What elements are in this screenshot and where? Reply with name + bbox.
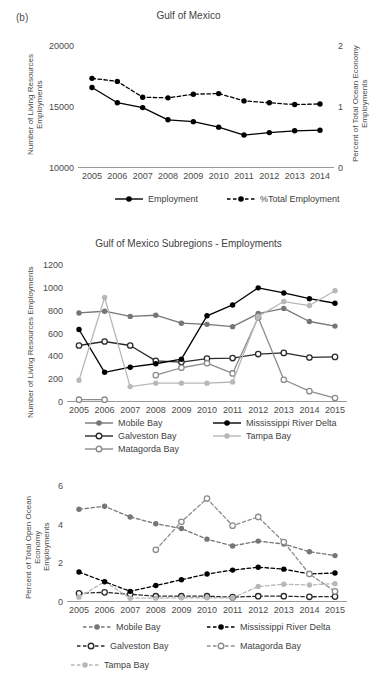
legend-symbol-icon — [82, 622, 112, 632]
legend-item-matagorda-bay[interactable]: Matagorda Bay — [206, 641, 301, 651]
y-axis-tick-label-right: 2 — [338, 41, 343, 51]
x-axis-tick-label: 2013 — [274, 605, 294, 615]
legend-marker — [88, 643, 94, 649]
x-axis-tick-label: 2009 — [171, 405, 191, 415]
x-axis-tick-label: 2006 — [95, 405, 115, 415]
legend-item-employment[interactable]: Employment — [114, 194, 198, 204]
legend-symbol-icon — [206, 641, 236, 651]
data-point-marker — [216, 124, 221, 129]
x-axis-tick-label: 2008 — [158, 171, 178, 181]
chart-legend: Employment%Total Employment — [78, 192, 334, 208]
data-point-marker — [128, 314, 133, 319]
legend-symbol-icon — [212, 431, 242, 441]
y-axis-tick-label: 600 — [48, 329, 63, 339]
data-point-marker — [179, 595, 184, 600]
data-point-marker — [281, 290, 286, 295]
legend-marker — [218, 643, 224, 649]
chart-panel-subregions-employments: Gulf of Mexico Subregions - Employments … — [0, 232, 377, 470]
data-point-marker — [332, 581, 337, 586]
legend-label: Matagorda Bay — [240, 641, 301, 651]
x-axis-tick-label: 2015 — [325, 405, 345, 415]
data-point-marker — [230, 543, 235, 548]
legend-item-tampa-bay[interactable]: Tampa Bay — [212, 431, 291, 441]
y-axis-tick-label: 0 — [58, 597, 63, 607]
data-point-marker — [230, 302, 235, 307]
data-point-marker — [230, 324, 235, 329]
x-axis-tick-label: 2010 — [209, 171, 229, 181]
data-point-marker — [128, 384, 133, 389]
data-point-marker — [140, 95, 145, 100]
data-point-marker — [191, 91, 196, 96]
data-point-marker — [102, 339, 107, 344]
legend-symbol-icon — [226, 194, 256, 204]
data-point-marker — [281, 566, 286, 571]
legend-label: Mississippi River Delta — [240, 622, 331, 632]
legend-item-mobile-bay[interactable]: Mobile Bay — [84, 418, 163, 428]
legend-marker — [96, 420, 102, 426]
data-point-marker — [256, 584, 261, 589]
data-point-marker — [281, 539, 286, 544]
data-point-marker — [281, 594, 286, 599]
data-point-marker — [307, 594, 312, 599]
x-axis-tick-label: 2013 — [285, 171, 305, 181]
legend-item-total-employment[interactable]: %Total Employment — [226, 194, 340, 204]
data-point-marker — [267, 100, 272, 105]
x-axis-tick-label: 2007 — [120, 405, 140, 415]
y-axis-tick-label: 1200 — [43, 260, 63, 270]
data-point-marker — [292, 102, 297, 107]
x-axis-tick-label: 2008 — [146, 405, 166, 415]
x-axis-tick-label: 2011 — [223, 605, 242, 615]
data-point-marker — [230, 523, 235, 528]
legend-item-mississippi-river-delta[interactable]: Mississippi River Delta — [212, 418, 337, 428]
legend-item-galveston-bay[interactable]: Galveston Bay — [84, 431, 177, 441]
x-axis-tick-label: 2010 — [197, 605, 217, 615]
legend-symbol-icon — [70, 660, 100, 670]
y-axis-tick-label: 400 — [48, 351, 63, 361]
x-axis-tick-label: 2007 — [133, 171, 153, 181]
data-point-marker — [153, 372, 158, 377]
chart-legend: Mobile BayGalveston BayMatagorda BayMiss… — [62, 418, 362, 460]
data-point-marker — [128, 514, 133, 519]
data-point-marker — [256, 285, 261, 290]
y-axis-tick-label: 10000 — [49, 163, 74, 173]
legend-item-tampa-bay[interactable]: Tampa Bay — [70, 660, 149, 670]
data-point-marker — [216, 91, 221, 96]
y-axis-tick-label: 800 — [48, 306, 63, 316]
legend-item-mississippi-river-delta[interactable]: Mississippi River Delta — [206, 622, 331, 632]
data-point-marker — [204, 380, 209, 385]
x-axis-tick-label: 2011 — [223, 405, 242, 415]
y-axis-tick-label: 20000 — [49, 41, 74, 51]
x-axis-tick-label: 2006 — [95, 605, 115, 615]
legend-item-galveston-bay[interactable]: Galveston Bay — [76, 641, 169, 651]
legend-label: %Total Employment — [260, 194, 340, 204]
data-point-marker — [76, 343, 81, 348]
data-point-marker — [179, 356, 184, 361]
legend-marker — [224, 420, 230, 426]
legend-label: Mobile Bay — [118, 418, 163, 428]
data-point-marker — [281, 582, 286, 587]
data-point-marker — [332, 589, 337, 594]
chart-canvas — [67, 486, 347, 602]
x-axis-tick-label: 2013 — [274, 405, 294, 415]
data-point-marker — [89, 76, 94, 81]
legend-item-matagorda-bay[interactable]: Matagorda Bay — [84, 444, 179, 454]
x-axis-tick-label: 2008 — [146, 605, 166, 615]
data-point-marker — [256, 351, 261, 356]
plot-area-subregions-employments: 0200400600800100012002005200620072008200… — [67, 265, 347, 402]
data-point-marker — [153, 380, 158, 385]
legend-label: Tampa Bay — [104, 660, 149, 670]
data-point-marker — [204, 313, 209, 318]
data-point-marker — [102, 295, 107, 300]
data-point-marker — [332, 570, 337, 575]
legend-marker — [82, 662, 88, 668]
y-axis-tick-label-right: 0 — [338, 163, 343, 173]
y-axis-tick-label: 200 — [48, 374, 63, 384]
x-axis-tick-label: 2014 — [299, 605, 319, 615]
chart-panel-gulf-of-mexico: (b) Gulf of Mexico Number of Living Reso… — [0, 0, 377, 232]
data-point-marker — [307, 582, 312, 587]
legend-item-mobile-bay[interactable]: Mobile Bay — [82, 622, 161, 632]
legend-label: Mobile Bay — [116, 622, 161, 632]
data-point-marker — [191, 119, 196, 124]
data-point-marker — [89, 85, 94, 90]
legend-label: Mississippi River Delta — [246, 418, 337, 428]
